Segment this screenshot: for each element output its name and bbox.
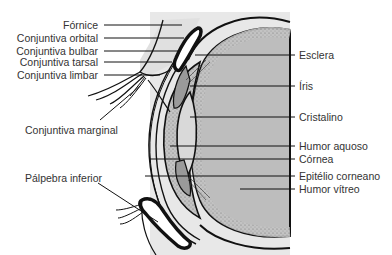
label-fornice: Fórnice xyxy=(63,19,98,31)
label-humor-aquoso: Humor aquoso xyxy=(299,140,368,152)
label-epitelio-corneano: Epitélio corneano xyxy=(299,170,380,182)
eye-anatomy-diagram: Fórnice Conjuntiva orbital Conjuntiva bu… xyxy=(0,0,392,255)
label-conjuntiva-tarsal: Conjuntiva tarsal xyxy=(20,56,98,68)
label-iris: Íris xyxy=(299,80,313,92)
label-cornea: Córnea xyxy=(299,153,333,165)
label-conjuntiva-limbar: Conjuntiva limbar xyxy=(17,69,98,81)
label-conjuntiva-orbital: Conjuntiva orbital xyxy=(17,32,98,44)
label-palpebra-inferior: Pálpebra inferior xyxy=(25,172,102,184)
label-humor-vitreo: Humor vítreo xyxy=(299,183,360,195)
label-conjuntiva-marginal: Conjuntiva marginal xyxy=(25,124,118,136)
label-cristalino: Cristalino xyxy=(299,111,343,123)
label-esclera: Esclera xyxy=(299,49,334,61)
